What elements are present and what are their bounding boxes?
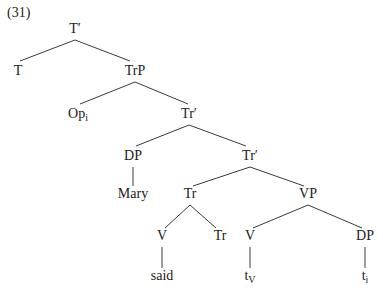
edge-tr-v xyxy=(165,205,190,228)
node-t-bar: T′ xyxy=(69,21,81,37)
node-mary: Mary xyxy=(118,186,148,202)
edge-vp-dp xyxy=(308,205,362,228)
node-tr-upper: Tr xyxy=(184,186,197,202)
edge-vp-v xyxy=(253,205,308,228)
node-dp-1: DP xyxy=(124,148,142,164)
edge-tr-tr xyxy=(190,205,216,228)
edge-tbar-t xyxy=(20,40,75,61)
edge-trbar2-tr xyxy=(193,167,250,186)
node-dp-2: DP xyxy=(356,228,374,244)
edge-trp-op xyxy=(80,82,135,104)
node-trace-i: ti xyxy=(362,268,369,284)
tree-edges xyxy=(0,0,383,300)
edge-trp-trbar xyxy=(135,82,188,104)
node-tr-bar-2: Tr′ xyxy=(242,148,258,164)
node-tr-bar-1: Tr′ xyxy=(181,106,197,122)
node-trace-v: tV xyxy=(244,268,255,284)
node-t: T xyxy=(14,63,23,79)
node-op-i: Opi xyxy=(68,106,88,122)
node-v-mid: V xyxy=(245,228,255,244)
edge-tbar-trp xyxy=(75,40,130,61)
edge-trbar2-vp xyxy=(250,167,304,186)
edge-trbar-trbar2 xyxy=(189,125,246,146)
node-trp: TrP xyxy=(125,63,146,79)
edge-trbar-dp xyxy=(136,125,189,146)
node-v-left: V xyxy=(157,228,167,244)
node-vp: VP xyxy=(299,186,317,202)
node-said: said xyxy=(151,268,174,284)
node-tr-lower: Tr xyxy=(214,228,227,244)
